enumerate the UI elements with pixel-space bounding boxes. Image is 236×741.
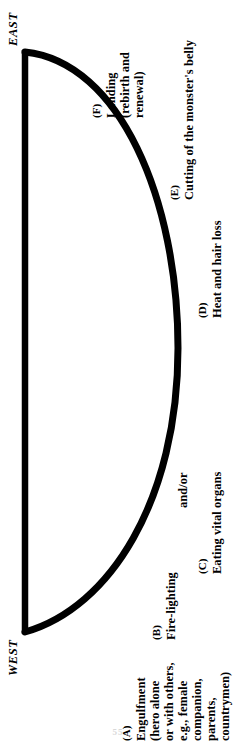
page-number: 55 xyxy=(0,727,236,737)
stage-label-e: (E) Cutting of the monster's belly xyxy=(168,40,196,200)
stage-text-c: Eating vital organs xyxy=(210,472,224,574)
stage-label-b: (B) Fire-lighting xyxy=(150,572,178,640)
stage-e-line-1: Cutting of the monster's belly xyxy=(182,40,196,200)
stage-text-b: Fire-lighting xyxy=(164,572,178,640)
stage-f-line-1: Landing xyxy=(104,52,118,118)
stage-f-line-3: renewal) xyxy=(132,52,146,118)
journey-arc xyxy=(25,52,178,632)
stage-text-f: Landing (rebirth and renewal) xyxy=(104,52,146,118)
stage-key-e: (E) xyxy=(168,40,181,200)
stage-text-d: Heat and hair loss xyxy=(210,220,224,318)
stage-label-d: (D) Heat and hair loss xyxy=(196,220,224,318)
stage-text-e: Cutting of the monster's belly xyxy=(182,40,196,200)
stage-c-line-1: Eating vital organs xyxy=(210,472,224,574)
stage-key-b: (B) xyxy=(150,572,163,640)
stage-key-c: (C) xyxy=(196,472,209,574)
stage-label-f: (F) Landing (rebirth and renewal) xyxy=(90,52,146,118)
compass-label-west: WEST xyxy=(6,640,20,676)
figure-root: EAST WEST (F) Landing (rebirth and renew… xyxy=(0,0,236,741)
stage-key-f: (F) xyxy=(90,52,103,118)
stage-label-c: (C) Eating vital organs xyxy=(196,472,224,574)
stage-key-d: (D) xyxy=(196,220,209,318)
connector-and-or: and/or xyxy=(176,472,190,508)
stage-d-line-1: Heat and hair loss xyxy=(210,220,224,318)
stage-b-line-1: Fire-lighting xyxy=(164,572,178,640)
stage-f-line-2: (rebirth and xyxy=(118,52,132,118)
compass-label-east: EAST xyxy=(6,12,20,46)
